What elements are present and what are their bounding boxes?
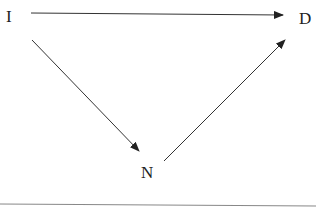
node-n: N: [141, 164, 153, 181]
edge-n-to-d: [164, 40, 285, 161]
node-i: I: [6, 8, 12, 25]
edge-i-to-d: [31, 13, 283, 15]
bottom-rule: [0, 204, 316, 206]
edge-i-to-n: [32, 40, 139, 151]
node-d: D: [299, 10, 311, 27]
diagram-canvas: [0, 0, 316, 215]
